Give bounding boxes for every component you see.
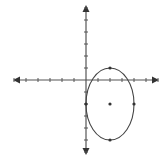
ellipse-point bbox=[84, 102, 87, 105]
axes bbox=[13, 5, 159, 155]
ellipse-point bbox=[108, 102, 111, 105]
marked-points bbox=[84, 66, 135, 141]
ellipse-point bbox=[108, 138, 111, 141]
coordinate-plane-figure bbox=[0, 0, 164, 158]
ellipse-point bbox=[108, 66, 111, 69]
ellipse-point bbox=[132, 102, 135, 105]
coordinate-plane-svg bbox=[0, 0, 164, 158]
